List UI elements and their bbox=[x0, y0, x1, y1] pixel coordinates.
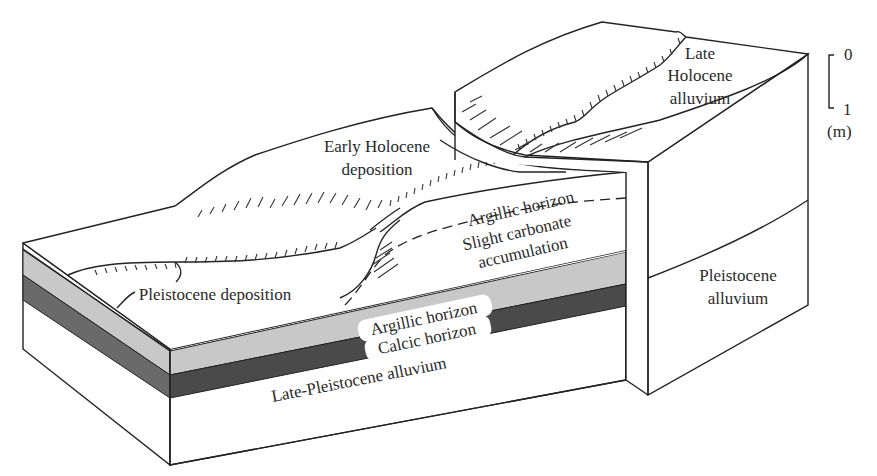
label-late-holocene-2: Holocene bbox=[667, 66, 732, 85]
scale-bar-unit-label: (m) bbox=[827, 122, 852, 141]
label-pleistocene-deposition: Pleistocene deposition bbox=[139, 285, 292, 304]
label-pleistocene-alluvium-1: Pleistocene bbox=[699, 266, 776, 285]
scale-bar-bracket bbox=[829, 55, 834, 108]
block-diagram: Early Holocene deposition Late Holocene … bbox=[0, 0, 877, 476]
label-late-holocene-1: Late bbox=[685, 44, 715, 63]
label-pleistocene-alluvium-2: alluvium bbox=[708, 289, 768, 308]
label-late-holocene-3: alluvium bbox=[670, 89, 730, 108]
scale-bar-top-label: 0 bbox=[844, 45, 853, 64]
label-early-holocene-deposition: deposition bbox=[342, 160, 413, 179]
scale-bar-bottom-label: 1 bbox=[843, 100, 852, 119]
scale-bar: 0 1 (m) bbox=[827, 45, 853, 141]
label-early-holocene: Early Holocene bbox=[324, 137, 430, 156]
